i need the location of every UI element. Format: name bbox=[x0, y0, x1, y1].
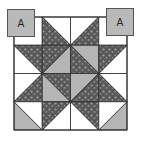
label-text: A bbox=[117, 17, 124, 28]
label-square-a-left: A bbox=[7, 9, 35, 37]
label-square-a-right: A bbox=[106, 8, 134, 36]
quilt-diagram: A A bbox=[0, 0, 143, 143]
label-text: A bbox=[18, 18, 25, 29]
